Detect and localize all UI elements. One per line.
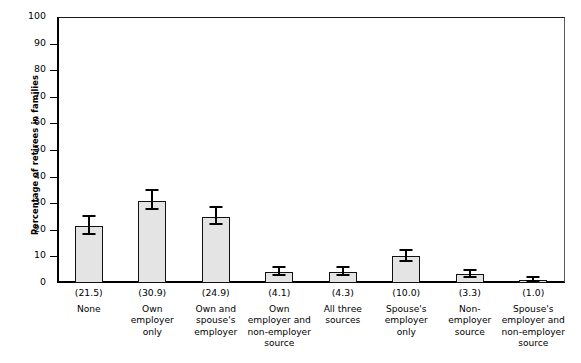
- x-axis-category: (4.3)All threesources: [311, 286, 375, 327]
- category-label-line: employer: [121, 315, 185, 326]
- category-label: Non-employersource: [438, 304, 502, 338]
- category-label-line: Own and: [184, 304, 248, 315]
- y-tick-label: 20: [34, 223, 46, 235]
- category-label-line: employer: [375, 315, 439, 326]
- y-tick-label: 50: [34, 143, 46, 155]
- y-tick-mark: [50, 256, 57, 257]
- y-tick-mark: [50, 203, 57, 204]
- y-tick-label: 70: [34, 90, 46, 102]
- y-tick-label: 100: [28, 10, 46, 22]
- y-tick-label: 80: [34, 63, 46, 75]
- error-cap-lower: [527, 280, 540, 282]
- bar-value-label: (21.5): [57, 286, 121, 299]
- y-tick-mark: [50, 150, 57, 151]
- bar-slot: [248, 17, 312, 283]
- y-tick-mark: [50, 70, 57, 71]
- category-label: All threesources: [311, 304, 375, 327]
- category-label-line: Non-employer: [438, 304, 502, 327]
- error-cap-upper: [463, 269, 476, 271]
- y-tick-mark: [50, 123, 57, 124]
- bar-value-label: (30.9): [121, 286, 185, 299]
- category-label-line: Own: [121, 304, 185, 315]
- bar-slot: [57, 17, 121, 283]
- error-cap-upper: [400, 249, 413, 251]
- bar: [202, 217, 230, 283]
- error-cap-upper: [146, 189, 159, 191]
- error-cap-upper: [527, 276, 540, 278]
- y-tick-label: 30: [34, 196, 46, 208]
- bar-value-label: (4.1): [248, 286, 312, 299]
- category-label-line: non-employer: [248, 327, 312, 338]
- error-cap-lower: [146, 208, 159, 210]
- category-label-line: source: [248, 338, 312, 349]
- category-label-line: Spouse's: [502, 304, 566, 315]
- category-label: Spouse'semployer andnon-employersource: [502, 304, 566, 350]
- category-label-line: Own: [248, 304, 312, 315]
- bar-slot: [121, 17, 185, 283]
- error-cap-lower: [400, 260, 413, 262]
- y-tick-label: 10: [34, 249, 46, 261]
- y-tick-mark: [50, 230, 57, 231]
- error-cap-lower: [336, 274, 349, 276]
- x-axis-category: (30.9)Ownemployeronly: [121, 286, 185, 338]
- bar-slot: [184, 17, 248, 283]
- x-axis-category: (10.0)Spouse'semployeronly: [375, 286, 439, 338]
- bar: [138, 201, 166, 283]
- category-label: Spouse'semployeronly: [375, 304, 439, 338]
- category-label-line: employer: [184, 327, 248, 338]
- category-label: Ownemployeronly: [121, 304, 185, 338]
- error-cap-lower: [273, 274, 286, 276]
- error-cap-upper: [336, 266, 349, 268]
- category-label-line: employer and: [248, 315, 312, 326]
- bar-value-label: (4.3): [311, 286, 375, 299]
- x-axis-category: (4.1)Ownemployer andnon-employersource: [248, 286, 312, 350]
- category-label-line: All three: [311, 304, 375, 315]
- y-tick-mark: [50, 97, 57, 98]
- x-axis-category: (24.9)Own andspouse'semployer: [184, 286, 248, 338]
- error-cap-lower: [209, 223, 222, 225]
- category-label-line: source: [438, 327, 502, 338]
- y-tick-label: 0: [40, 276, 46, 288]
- category-label-line: only: [375, 327, 439, 338]
- bars-area: [57, 17, 565, 283]
- error-cap-lower: [463, 276, 476, 278]
- bar-value-label: (24.9): [184, 286, 248, 299]
- category-label-line: spouse's: [184, 315, 248, 326]
- category-label: Ownemployer andnon-employersource: [248, 304, 312, 350]
- category-label-line: sources: [311, 315, 375, 326]
- error-cap-upper: [209, 206, 222, 208]
- category-label-line: source: [502, 338, 566, 349]
- bar-slot: [311, 17, 375, 283]
- x-axis-category: (3.3)Non-employersource: [438, 286, 502, 338]
- x-axis-labels: (21.5)None(30.9)Ownemployeronly(24.9)Own…: [57, 286, 565, 363]
- x-axis-category: (21.5)None: [57, 286, 121, 315]
- y-tick-label: 40: [34, 170, 46, 182]
- bar-slot: [502, 17, 566, 283]
- category-label-line: only: [121, 327, 185, 338]
- category-label: None: [57, 304, 121, 315]
- bar-slot: [438, 17, 502, 283]
- category-label-line: employer and: [502, 315, 566, 326]
- error-cap-lower: [82, 233, 95, 235]
- x-axis-category: (1.0)Spouse'semployer andnon-employersou…: [502, 286, 566, 350]
- category-label-line: non-employer: [502, 327, 566, 338]
- category-label: Own andspouse'semployer: [184, 304, 248, 338]
- y-tick-mark: [50, 177, 57, 178]
- bar-value-label: (3.3): [438, 286, 502, 299]
- bar-slot: [375, 17, 439, 283]
- bar-chart: Percentage of retirees in families 01020…: [0, 0, 581, 363]
- y-tick-label: 60: [34, 116, 46, 128]
- y-tick-mark: [50, 44, 57, 45]
- category-label-line: Spouse's: [375, 304, 439, 315]
- error-cap-upper: [273, 266, 286, 268]
- category-label-line: None: [57, 304, 121, 315]
- error-cap-upper: [82, 215, 95, 217]
- bar-value-label: (10.0): [375, 286, 439, 299]
- y-tick-label: 90: [34, 37, 46, 49]
- bar-value-label: (1.0): [502, 286, 566, 299]
